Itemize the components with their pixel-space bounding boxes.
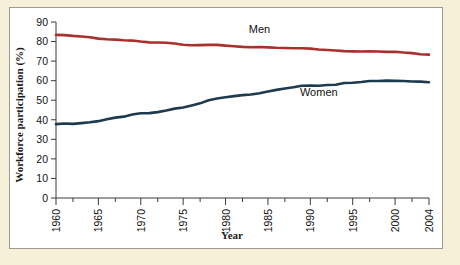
y-tick-label: 50	[36, 94, 48, 106]
y-tick-label: 60	[36, 74, 48, 86]
series-label-women: Women	[300, 86, 338, 98]
y-tick-label: 20	[36, 153, 48, 165]
y-axis-title: Workforce participation (%)	[13, 47, 26, 183]
line-chart-canvas: 0102030405060708090 19601965197019751980…	[10, 8, 442, 248]
chart-panel: 0102030405060708090 19601965197019751980…	[9, 7, 443, 249]
y-tick-label: 80	[36, 35, 48, 47]
x-axis: 1960196519701975198019851990199520002004	[50, 198, 435, 232]
y-tick-label: 40	[36, 114, 48, 126]
y-axis: 0102030405060708090	[36, 16, 56, 204]
y-tick-label: 70	[36, 55, 48, 67]
y-tick-label: 10	[36, 172, 48, 184]
x-tick-label: 1985	[262, 209, 274, 233]
y-tick-label: 0	[42, 192, 48, 204]
x-tick-label: 1965	[92, 209, 104, 233]
y-tick-label: 90	[36, 16, 48, 28]
x-tick-label: 2000	[389, 209, 401, 233]
data-series-group	[56, 35, 429, 124]
chart-figure: 0102030405060708090 19601965197019751980…	[0, 0, 460, 265]
series-label-men: Men	[249, 23, 270, 35]
series-line-men	[56, 35, 429, 55]
x-axis-title: Year	[221, 229, 243, 241]
x-tick-label: 1970	[135, 209, 147, 233]
x-tick-label: 2004	[423, 209, 435, 233]
x-tick-label: 1995	[347, 209, 359, 233]
series-line-women	[56, 81, 429, 124]
x-tick-label: 1960	[50, 209, 62, 233]
y-tick-label: 30	[36, 133, 48, 145]
x-tick-label: 1975	[177, 209, 189, 233]
x-tick-label: 1990	[304, 209, 316, 233]
